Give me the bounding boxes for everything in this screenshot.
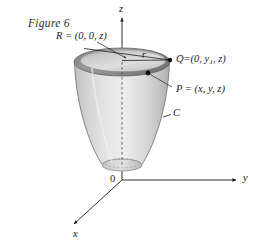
label-point-r-text: R = (0, 0, z) [56,30,107,41]
label-axis-x: x [73,229,78,240]
label-point-p: P = (x, y, z) [176,84,225,95]
label-axis-y: y [243,173,248,184]
label-point-q-equals: = [184,53,191,64]
label-point-q-coords-prefix: (0, y [191,53,210,64]
point-p-dot [146,71,151,76]
label-point-q-coords-suffix: , z) [213,53,226,64]
label-curve-c: C [173,108,180,119]
label-origin: 0 [110,174,115,185]
x-axis-line [74,180,122,224]
x-axis [74,180,122,224]
label-point-q: Q=(0, y1, z) [176,54,226,66]
figure-diagram-svg [0,0,268,252]
label-point-p-text: P = (x, y, z) [176,83,225,94]
label-point-r: R = (0, 0, z) [56,31,107,42]
figure-caption: Figure 6 [28,18,70,30]
radius-segment [122,60,170,61]
label-axis-z: z [119,4,123,15]
point-q-dot [168,58,172,62]
label-radius: r [142,51,146,61]
label-point-q-name: Q [176,53,184,64]
figure-container: Figure 6 R = (0, 0, z) Q=(0, y1, z) P = … [0,0,268,252]
leader-line-c [163,115,171,118]
